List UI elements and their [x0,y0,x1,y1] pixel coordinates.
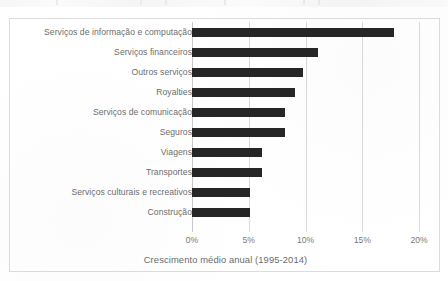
bar-track [192,202,441,222]
category-label: Construção [148,202,192,222]
bar [192,68,303,77]
bar-row: Serviços financeiros [10,42,441,62]
bar-track [192,62,441,82]
x-tick-label: 15% [354,235,371,245]
bar [192,168,262,177]
bar [192,88,295,97]
bar-track [192,182,441,202]
plot-area: Serviços de informação e computaçãoServi… [10,19,441,273]
x-tick-label: 0% [186,235,198,245]
bar [192,188,250,197]
bar-row: Construção [10,202,441,222]
bar [192,28,394,37]
x-axis-tick-labels: 0%5%10%15%20% [10,235,441,251]
category-label: Serviços culturais e recreativos [71,182,192,202]
bar-row: Serviços de informação e computação [10,22,441,42]
bar-row: Viagens [10,142,441,162]
bar [192,48,318,57]
x-axis-title: Crescimento médio anual (1995-2014) [10,254,441,265]
x-tick-label: 5% [243,235,255,245]
x-tick-label: 10% [297,235,314,245]
bar-row: Serviços de comunicação [10,102,441,122]
bar-track [192,162,441,182]
bar-row: Serviços culturais e recreativos [10,182,441,202]
bar [192,128,285,137]
bar-track [192,22,441,42]
category-label: Serviços de comunicação [93,102,192,122]
bar-row: Outros serviços [10,62,441,82]
category-label: Royalties [156,82,192,102]
category-label: Serviços de informação e computação [44,22,192,42]
category-label: Viagens [161,142,192,162]
bar-track [192,142,441,162]
chart-frame: Serviços de informação e computaçãoServi… [9,18,440,272]
category-label: Seguros [160,122,192,142]
bar-track [192,122,441,142]
bar-row: Royalties [10,82,441,102]
bar-track [192,102,441,122]
category-label: Serviços financeiros [114,42,192,62]
bar-track [192,82,441,102]
x-tick-label: 20% [410,235,427,245]
category-label: Outros serviços [132,62,192,82]
bar-rows: Serviços de informação e computaçãoServi… [10,22,441,232]
scan-artifact-strip [0,0,448,7]
bar-row: Seguros [10,122,441,142]
category-label: Transportes [146,162,192,182]
bar [192,108,285,117]
bar [192,148,262,157]
bar-track [192,42,441,62]
bar [192,208,250,217]
bar-row: Transportes [10,162,441,182]
